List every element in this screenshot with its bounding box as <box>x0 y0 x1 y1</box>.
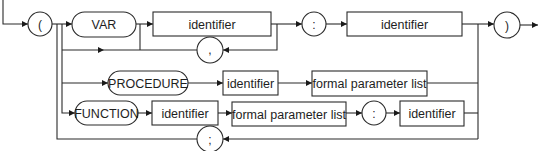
syntax-diagram: ( : , ) : ; VAR PROCEDURE FUNCTION ident… <box>0 0 540 151</box>
svg-text:,: , <box>208 43 211 57</box>
box-func-type-identifier: identifier <box>400 101 464 126</box>
terminal-comma: , <box>197 37 223 63</box>
svg-text:FUNCTION: FUNCTION <box>74 107 139 121</box>
svg-text:;: ; <box>208 133 211 147</box>
box-func-identifier: identifier <box>152 101 218 125</box>
svg-text:identifier: identifier <box>161 107 208 121</box>
svg-text:identifier: identifier <box>381 18 428 32</box>
svg-text:PROCEDURE: PROCEDURE <box>108 77 188 91</box>
terminal-close-paren: ) <box>494 12 520 38</box>
svg-text:(: ( <box>38 18 42 32</box>
terminal-open-paren: ( <box>28 12 52 36</box>
terminal-semicolon: ; <box>197 126 223 151</box>
svg-text:formal parameter list: formal parameter list <box>232 108 346 122</box>
terminal-var-colon: : <box>302 12 326 36</box>
box-var-type-identifier: identifier <box>347 12 462 36</box>
box-proc-formal-parameter-list: formal parameter list <box>312 71 427 96</box>
terminal-func-colon: : <box>362 101 386 125</box>
svg-text::: : <box>372 107 375 121</box>
box-var-identifier: identifier <box>153 12 271 36</box>
svg-text::: : <box>312 18 315 32</box>
svg-text:identifier: identifier <box>188 18 235 32</box>
keyword-procedure: PROCEDURE <box>108 71 188 95</box>
svg-text:): ) <box>505 19 509 33</box>
keyword-var: VAR <box>72 12 136 37</box>
svg-text:identifier: identifier <box>227 77 274 91</box>
box-proc-identifier: identifier <box>223 71 278 95</box>
svg-text:formal parameter list: formal parameter list <box>313 77 427 91</box>
svg-text:identifier: identifier <box>408 107 455 121</box>
svg-text:VAR: VAR <box>92 18 117 32</box>
keyword-function: FUNCTION <box>74 101 139 125</box>
box-func-formal-parameter-list: formal parameter list <box>232 102 346 126</box>
